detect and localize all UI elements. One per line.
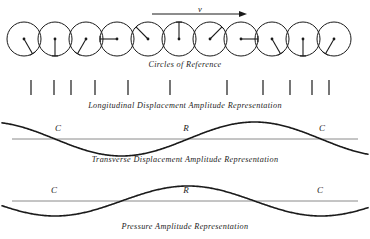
reference-circle-center-dot (116, 38, 119, 41)
reference-circle-center-dot (23, 38, 26, 41)
caption-pressure: Pressure Amplitude Representation (0, 222, 370, 231)
reference-circle-center-dot (147, 38, 150, 41)
reference-circle-center-dot (240, 38, 243, 41)
reference-circle-center-dot (54, 38, 57, 41)
reference-circle-center-dot (85, 38, 88, 41)
reference-circle-center-dot (178, 38, 181, 41)
longitudinal-ticks-group (31, 80, 329, 95)
reference-circle-radius (24, 39, 33, 54)
wave-marker-label: C (319, 123, 326, 133)
reference-circle-radius (272, 39, 281, 54)
caption-longitudinal: Longitudinal Displacement Amplitude Repr… (0, 101, 370, 110)
reference-circle-projection-tick (30, 52, 36, 55)
velocity-arrow-head (239, 11, 247, 17)
circles-of-reference-group (7, 22, 351, 56)
caption-transverse: Transverse Displacement Amplitude Repres… (0, 155, 370, 164)
reference-circle-projection-tick (323, 52, 329, 55)
caption-circles-of-reference: Circles of Reference (0, 60, 370, 69)
velocity-arrow-group: v (152, 4, 247, 17)
reference-circle-center-dot (302, 38, 305, 41)
pressure-wave-group: CRC (2, 185, 368, 216)
transverse-wave-group: CRC (2, 122, 368, 156)
reference-circle-radius (210, 27, 222, 39)
wave-marker-label: C (55, 123, 62, 133)
reference-circle-radius (326, 39, 335, 54)
reference-circle-radius (136, 27, 148, 39)
wave-marker-label: R (182, 185, 189, 195)
sound-wave-diagram: vCRCCRC Circles of Reference Longitudina… (0, 0, 370, 239)
reference-circle-center-dot (271, 38, 274, 41)
reference-circle-center-dot (333, 38, 336, 41)
wave-marker-label: R (182, 123, 189, 133)
wave-marker-label: C (51, 185, 58, 195)
reference-circle-projection-tick (278, 52, 284, 55)
reference-circle-radius (78, 39, 87, 54)
reference-circle-center-dot (209, 38, 212, 41)
diagram-canvas: vCRCCRC (0, 0, 370, 239)
wave-marker-label: C (317, 185, 324, 195)
reference-circle-projection-tick (75, 52, 81, 55)
velocity-label: v (198, 4, 202, 14)
